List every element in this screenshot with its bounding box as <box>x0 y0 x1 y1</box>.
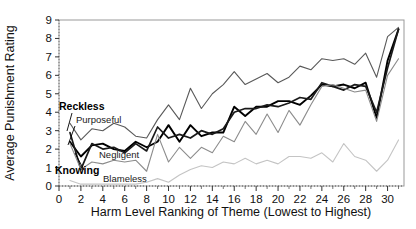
x-tick-label: 10 <box>162 193 175 205</box>
x-tick-label: 2 <box>78 193 84 205</box>
chart-container: 0123456789 024681012141618202224262830 R… <box>0 0 416 229</box>
x-tick-label: 8 <box>143 193 149 205</box>
series-label-purposeful: Purposeful <box>76 114 121 125</box>
y-tick-label: 2 <box>46 143 52 155</box>
y-tick-label: 8 <box>46 32 52 44</box>
series-label-negligent: Negligent <box>99 149 139 160</box>
x-tick-label: 18 <box>250 193 263 205</box>
x-tick-label: 26 <box>337 193 350 205</box>
x-tick-label: 16 <box>228 193 241 205</box>
x-tick-label: 30 <box>381 193 394 205</box>
y-tick-label: 7 <box>46 51 52 63</box>
y-axis-title: Average Punishment Rating <box>3 25 17 180</box>
x-axis-title: Harm Level Ranking of Theme (Lowest to H… <box>91 205 371 219</box>
y-tick-label: 6 <box>46 69 52 81</box>
y-tick-label: 4 <box>46 106 53 118</box>
y-tick-label: 5 <box>46 88 52 100</box>
x-tick-label: 12 <box>184 193 197 205</box>
x-tick-label: 14 <box>206 193 219 205</box>
x-tick-label: 28 <box>359 193 372 205</box>
x-tick-label: 20 <box>272 193 285 205</box>
x-tick-label: 6 <box>122 193 128 205</box>
series-label-reckless: Reckless <box>59 100 105 112</box>
series-label-knowing: Knowing <box>55 164 99 176</box>
x-tick-label: 0 <box>56 193 62 205</box>
y-tick-label: 1 <box>46 162 52 174</box>
x-tick-label: 22 <box>294 193 307 205</box>
x-tick-label: 4 <box>100 193 107 205</box>
x-axis: 024681012141618202224262830 <box>56 186 394 205</box>
y-tick-label: 9 <box>46 14 52 26</box>
y-tick-label: 0 <box>46 180 52 192</box>
y-tick-label: 3 <box>46 125 52 137</box>
x-tick-label: 24 <box>315 193 328 205</box>
series-label-blameless: Blameless <box>103 173 147 184</box>
line-chart: 0123456789 024681012141618202224262830 R… <box>0 0 416 229</box>
